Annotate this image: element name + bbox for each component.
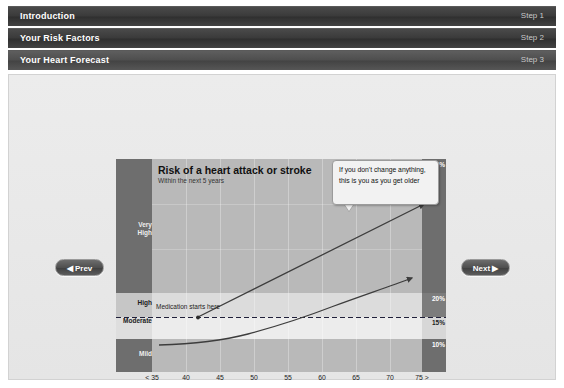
x-tick-60: 60 xyxy=(318,374,326,381)
x-tick-70: 70 xyxy=(386,374,394,381)
next-button[interactable]: Next ▶ xyxy=(461,259,510,276)
x-tick-65: 65 xyxy=(352,374,360,381)
nav-step-your-heart-forecast[interactable]: Your Heart Forecast Step 3 xyxy=(8,50,556,70)
nav-step-introduction[interactable]: Introduction Step 1 xyxy=(8,6,556,26)
x-tick-40: 40 xyxy=(182,374,190,381)
x-tick-75: 75 > xyxy=(415,374,428,381)
series-projected-risk xyxy=(159,278,412,345)
nav-step-number-1: Step 1 xyxy=(521,11,544,20)
heart-forecast-app: Introduction Step 1 Your Risk Factors St… xyxy=(0,0,564,388)
nav-step-number-2: Step 2 xyxy=(521,33,544,42)
callout-box: If you don't change anything, this is yo… xyxy=(332,160,439,205)
x-tick-45: 45 xyxy=(216,374,224,381)
nav-step-number-3: Step 3 xyxy=(521,55,544,64)
medication-threshold-label: Medication starts here xyxy=(156,303,220,310)
nav-step-your-risk-factors[interactable]: Your Risk Factors Step 2 xyxy=(8,28,556,48)
series-untreated-projection xyxy=(198,204,424,317)
chart-title: Risk of a heart attack or stroke xyxy=(158,164,311,176)
nav-label-your-heart-forecast: Your Heart Forecast xyxy=(20,55,109,65)
chart-subtitle: Within the next 5 years xyxy=(158,177,224,184)
current-risk-marker xyxy=(196,316,200,320)
callout-text: If you don't change anything, this is yo… xyxy=(339,165,435,186)
x-tick-50: 50 xyxy=(250,374,258,381)
x-tick-55: 55 xyxy=(284,374,292,381)
content-panel: ◀ Prev Next ▶ VeryHigh xyxy=(8,74,556,380)
nav-label-introduction: Introduction xyxy=(20,11,75,21)
prev-button[interactable]: ◀ Prev xyxy=(55,259,104,276)
x-tick-35: < 35 xyxy=(145,374,158,381)
nav-label-your-risk-factors: Your Risk Factors xyxy=(20,33,100,43)
x-axis-labels: < 35 40 45 50 55 60 65 70 75 > xyxy=(116,374,446,386)
